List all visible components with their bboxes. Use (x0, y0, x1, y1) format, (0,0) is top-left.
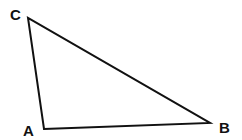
vertex-label-c: C (10, 6, 21, 23)
vertex-label-a: A (23, 122, 34, 139)
triangle-abc (28, 18, 210, 129)
triangle-diagram: A B C (0, 0, 242, 140)
vertex-label-b: B (219, 119, 230, 136)
